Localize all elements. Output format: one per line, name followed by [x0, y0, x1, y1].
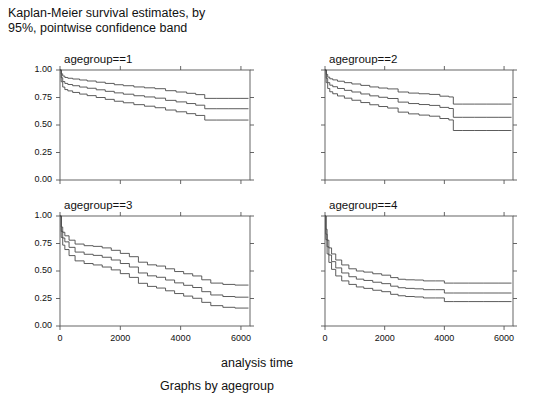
panel-4 [321, 212, 517, 330]
panel-title-1: agegroup==1 [64, 53, 132, 65]
y-tick-label: 0.25 [16, 147, 52, 157]
x-axis-label: analysis time [221, 356, 293, 370]
panel-frame [60, 216, 250, 326]
survival-curve-upper [325, 70, 512, 104]
figure-footer-note: Graphs by agegroup [160, 379, 274, 393]
y-tick-label: 1.00 [16, 64, 52, 74]
x-tick-label: 6000 [486, 333, 522, 343]
y-tick-label: 1.00 [16, 210, 52, 220]
y-tick-label: 0.50 [16, 119, 52, 129]
y-tick-label: 0.50 [16, 265, 52, 275]
y-tick-label: 0.25 [16, 293, 52, 303]
figure-title: Kaplan-Meier survival estimates, by 95%,… [8, 6, 308, 36]
kaplan-meier-figure: Kaplan-Meier survival estimates, by 95%,… [0, 0, 542, 404]
panel-frame [60, 70, 250, 180]
x-tick-label: 6000 [223, 333, 259, 343]
survival-curve-estimate [60, 216, 248, 297]
panel-frame [325, 70, 513, 180]
survival-curve-upper [60, 216, 248, 285]
panel-3 [56, 212, 254, 330]
panel-title-2: agegroup==2 [329, 53, 397, 65]
survival-curve-upper [60, 70, 248, 98]
panel-2 [321, 66, 517, 184]
survival-curve-estimate [325, 216, 512, 293]
survival-curve-estimate [325, 70, 512, 117]
x-tick-label: 0 [42, 333, 78, 343]
x-tick-label: 4000 [426, 333, 462, 343]
panel-1 [56, 66, 254, 184]
survival-curve-upper [325, 216, 512, 283]
panel-title-4: agegroup==4 [329, 199, 397, 211]
x-tick-label: 2000 [102, 333, 138, 343]
y-tick-label: 0.00 [16, 320, 52, 330]
y-tick-label: 0.75 [16, 238, 52, 248]
survival-curve-lower [60, 70, 248, 120]
x-tick-label: 0 [307, 333, 343, 343]
x-tick-label: 4000 [163, 333, 199, 343]
panel-frame [325, 216, 513, 326]
survival-curve-lower [325, 70, 512, 131]
panel-title-3: agegroup==3 [64, 199, 132, 211]
y-tick-label: 0.75 [16, 92, 52, 102]
x-tick-label: 2000 [367, 333, 403, 343]
survival-curve-lower [60, 216, 248, 308]
y-tick-label: 0.00 [16, 174, 52, 184]
survival-curve-estimate [60, 70, 248, 109]
